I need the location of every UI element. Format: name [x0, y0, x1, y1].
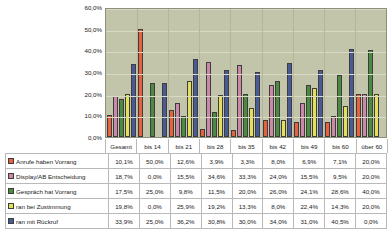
category-label: bis 60: [325, 139, 356, 153]
table-value-cell: 24,1%: [294, 184, 325, 199]
table-value-cell: 10,1%: [109, 154, 140, 169]
bar: [175, 103, 180, 137]
y-axis-tick-label: 40,0%: [84, 48, 102, 54]
series-name: Gespräch hat Vorrang: [16, 188, 77, 195]
group-separator: [262, 9, 263, 137]
data-table: Anrufe haben Vorrang10,1%50,0%12,6%3,9%3…: [5, 153, 387, 229]
series-name: Anrufe haben Vorrang: [16, 158, 77, 165]
bar: [249, 108, 254, 137]
category-label: bis 14: [137, 139, 168, 153]
bar: [200, 129, 205, 137]
y-axis-tick-label: 30,0%: [84, 70, 102, 76]
y-axis-tick-label: 60,0%: [84, 5, 102, 11]
group-separator: [293, 9, 294, 137]
table-value-cell: 6,9%: [294, 154, 325, 169]
bar: [362, 94, 367, 137]
table-value-cell: 3,3%: [232, 154, 263, 169]
bar: [331, 116, 336, 137]
table-value-cell: 3,9%: [201, 154, 232, 169]
bar: [218, 95, 223, 137]
bar: [231, 130, 236, 137]
table-value-cell: 34,6%: [201, 169, 232, 184]
group-separator: [168, 9, 169, 137]
table-value-cell: 34,0%: [263, 214, 294, 229]
series-label-cell: ran mit Rückruf: [6, 214, 109, 229]
bar: [162, 83, 167, 137]
plot-area: [105, 8, 387, 138]
bar: [356, 94, 361, 137]
table-value-cell: 0,0%: [139, 169, 170, 184]
legend-entry: Gespräch hat Vorrang: [8, 188, 108, 195]
bar: [193, 59, 198, 137]
group-separator: [324, 9, 325, 137]
table-value-cell: 25,0%: [139, 214, 170, 229]
table-row: Display/AB Entscheidung18,7%0,0%15,5%34,…: [6, 169, 387, 184]
table-value-cell: 0,0%: [139, 199, 170, 214]
group-separator: [355, 9, 356, 137]
bar: [343, 106, 348, 137]
legend-swatch-icon: [8, 218, 14, 224]
gridline: [106, 31, 386, 32]
table-value-cell: 7,1%: [325, 154, 356, 169]
bar: [187, 81, 192, 137]
y-axis-tick-label: 0,0%: [88, 135, 102, 141]
chart-container: 0,0%10,0%20,0%30,0%40,0%50,0%60,0% Gesam…: [0, 0, 392, 243]
data-table-body: Anrufe haben Vorrang10,1%50,0%12,6%3,9%3…: [6, 154, 387, 229]
bar: [269, 85, 274, 137]
y-axis: 0,0%10,0%20,0%30,0%40,0%50,0%60,0%: [60, 8, 104, 138]
table-value-cell: 19,2%: [201, 199, 232, 214]
legend-entry: Anrufe haben Vorrang: [8, 158, 108, 165]
bar: [368, 50, 373, 137]
y-axis-tick-label: 20,0%: [84, 92, 102, 98]
table-value-cell: 33,9%: [109, 214, 140, 229]
table-value-cell: 40,0%: [356, 184, 387, 199]
gridline: [106, 52, 386, 53]
bar: [107, 115, 112, 137]
bar: [212, 112, 217, 137]
legend-swatch-icon: [8, 158, 14, 164]
bar: [138, 29, 143, 137]
category-label: bis 28: [200, 139, 231, 153]
table-value-cell: 25,0%: [139, 184, 170, 199]
series-name: ran mit Rückruf: [16, 218, 58, 225]
y-axis-tick-label: 50,0%: [84, 27, 102, 33]
legend-entry: ran bei Zustimmung: [8, 203, 108, 210]
group-separator: [199, 9, 200, 137]
y-axis-tick-label: 10,0%: [84, 113, 102, 119]
category-label: bis 42: [263, 139, 294, 153]
legend-swatch-icon: [8, 188, 14, 194]
table-value-cell: 9,5%: [325, 169, 356, 184]
bar: [349, 49, 354, 137]
table-value-cell: 33,3%: [232, 169, 263, 184]
bar: [300, 103, 305, 137]
table-value-cell: 40,5%: [325, 214, 356, 229]
table-value-cell: 19,8%: [109, 199, 140, 214]
table-value-cell: 20,0%: [232, 184, 263, 199]
bar: [281, 120, 286, 137]
legend-swatch-icon: [8, 173, 14, 179]
table-value-cell: 30,8%: [201, 214, 232, 229]
table-value-cell: 24,0%: [263, 169, 294, 184]
table-row: ran bei Zustimmung19,8%0,0%25,9%19,2%13,…: [6, 199, 387, 214]
gridline: [106, 74, 386, 75]
group-separator: [230, 9, 231, 137]
bar: [275, 81, 280, 137]
table-row: Gespräch hat Vorrang17,5%25,0%9,8%11,5%2…: [6, 184, 387, 199]
series-label-cell: ran bei Zustimmung: [6, 199, 109, 214]
table-value-cell: 26,0%: [263, 184, 294, 199]
legend-swatch-icon: [8, 203, 14, 209]
table-value-cell: 36,2%: [170, 214, 201, 229]
legend-entry: Display/AB Entscheidung: [8, 173, 108, 180]
bar: [125, 94, 130, 137]
table-value-cell: 8,0%: [263, 199, 294, 214]
bar: [263, 120, 268, 137]
table-value-cell: 14,3%: [325, 199, 356, 214]
table-value-cell: 20,0%: [356, 154, 387, 169]
series-name: ran bei Zustimmung: [16, 203, 71, 210]
table-value-cell: 28,6%: [325, 184, 356, 199]
category-header-row: Gesamtbis 14bis 21bis 28bis 35bis 42bis …: [105, 139, 388, 153]
table-value-cell: 13,3%: [232, 199, 263, 214]
bar: [325, 122, 330, 137]
table-value-cell: 22,4%: [294, 199, 325, 214]
bar: [306, 85, 311, 137]
